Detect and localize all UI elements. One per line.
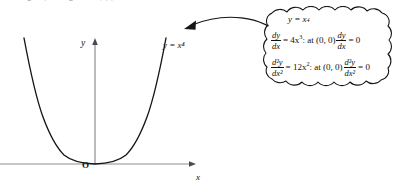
second-derivative-denominator-2: dx² [344, 67, 357, 77]
first-derivative-denominator: dx [271, 40, 281, 50]
first-derivative-numerator-2: dy [336, 31, 346, 40]
second-derivative-equals-expr: = 12x [286, 62, 307, 72]
equation-first-derivative: dy dx = 4x3: at (0, 0) dy dx = 0 [270, 31, 406, 50]
second-derivative-fraction-2: d²y dx² [344, 58, 357, 77]
first-derivative-equals-expr: = 4x [283, 35, 299, 45]
first-derivative-fraction: dy dx [271, 31, 281, 50]
equation-function-rhs-base: x [303, 15, 307, 24]
second-derivative-denominator: dx² [271, 67, 284, 77]
equation-second-derivative: d²y dx² = 12x2: at (0, 0) d²y dx² = 0 [270, 58, 406, 77]
first-derivative-denominator-2: dx [336, 40, 346, 50]
origin-label: O [82, 160, 89, 170]
second-derivative-fraction: d²y dx² [271, 58, 284, 77]
first-derivative-condition: : at (0, 0) [302, 35, 335, 45]
first-derivative-numerator: dy [271, 31, 281, 40]
callout-equations: y = x 4 dy dx = 4x3: at (0, 0) dy dx = 0 [270, 14, 406, 86]
x-axis-label: x [196, 172, 200, 182]
y-axis [92, 38, 98, 164]
cloud-callout-bubble: y = x 4 dy dx = 4x3: at (0, 0) dy dx = 0 [252, 6, 417, 94]
first-derivative-fraction-2: dy dx [336, 31, 346, 50]
equation-function: y = x 4 [270, 15, 406, 24]
y-axis-label: y [81, 38, 85, 48]
second-derivative-rhs: = 12x2: at (0, 0) [286, 63, 343, 72]
second-derivative-numerator-2: d²y [344, 58, 357, 67]
first-derivative-rhs: = 4x3: at (0, 0) [283, 36, 335, 45]
cut-off-caption-text: the origin. (See Figure 5.6(c).) [4, 0, 114, 1]
second-derivative-condition: : at (0, 0) [310, 62, 343, 72]
equation-function-equals: = [292, 15, 303, 24]
figure-canvas: the origin. (See Figure 5.6(c).) y x O y… [0, 0, 417, 184]
first-derivative-result: = 0 [348, 36, 360, 45]
second-derivative-numerator: d²y [271, 58, 284, 67]
second-derivative-result: = 0 [358, 63, 370, 72]
